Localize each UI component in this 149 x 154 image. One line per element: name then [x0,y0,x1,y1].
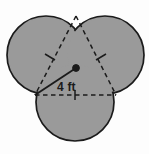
geometry-canvas [0,0,149,154]
geometry-figure: 4 ft [0,0,149,154]
center-point-dot [73,65,80,72]
measurement-label: 4 ft [57,81,76,93]
cluster-interior-fill [9,18,143,140]
